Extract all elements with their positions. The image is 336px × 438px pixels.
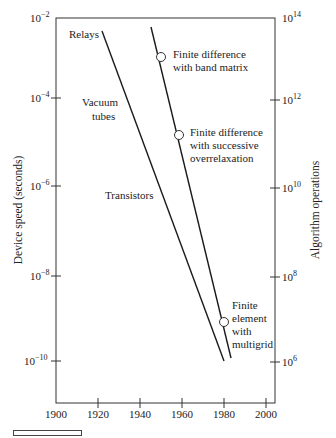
right-axis-title: Algorithm operations	[309, 160, 322, 259]
label-multigrid-line3: with	[232, 325, 252, 337]
svg-text:10−4: 10−4	[30, 90, 50, 104]
label-vacuum-line2: tubes	[92, 110, 115, 122]
marker-multigrid	[220, 318, 229, 327]
svg-text:10−10: 10−10	[24, 353, 48, 367]
algorithm-operations-line	[151, 27, 231, 358]
label-sor-line3: overrelaxation	[190, 152, 254, 164]
svg-text:1010: 1010	[282, 180, 301, 194]
label-sor-line1: Finite difference	[190, 126, 263, 138]
label-band-matrix-line2: with band matrix	[173, 61, 249, 73]
svg-text:10−6: 10−6	[30, 178, 50, 192]
svg-text:1960: 1960	[171, 408, 194, 420]
label-transistors: Transistors	[105, 189, 154, 201]
label-multigrid-line1: Finite	[232, 299, 258, 311]
left-y-tick-labels: 10−2 10−4 10−6 10−8 10−10	[24, 10, 50, 367]
label-band-matrix-line1: Finite difference	[173, 48, 246, 60]
svg-text:1940: 1940	[129, 408, 152, 420]
svg-text:1012: 1012	[282, 92, 301, 106]
chart: 10−2 10−4 10−6 10−8 10−10 1014 1012 1010…	[0, 0, 336, 438]
label-relays: Relays	[69, 28, 99, 40]
svg-text:10−2: 10−2	[30, 10, 50, 24]
svg-text:106: 106	[282, 354, 297, 368]
label-sor-line2: with successive	[190, 139, 259, 151]
svg-text:1920: 1920	[87, 408, 110, 420]
marker-sor	[175, 131, 184, 140]
marker-band-matrix	[157, 53, 166, 62]
left-axis-title: Device speed (seconds)	[12, 156, 25, 265]
svg-text:2000: 2000	[255, 408, 278, 420]
svg-text:10−8: 10−8	[30, 268, 50, 282]
x-tick-labels: 1900 1920 1940 1960 1980 2000	[45, 408, 278, 420]
label-multigrid-line2: element	[232, 312, 267, 324]
svg-text:108: 108	[282, 269, 297, 283]
svg-text:1014: 1014	[282, 10, 301, 24]
label-multigrid-line4: multigrid	[232, 338, 273, 350]
right-y-tick-labels: 1014 1012 1010 108 106	[282, 10, 301, 368]
label-vacuum-line1: Vacuum	[82, 96, 118, 108]
svg-text:1900: 1900	[45, 408, 68, 420]
svg-text:1980: 1980	[213, 408, 236, 420]
scale-bar	[13, 430, 82, 436]
